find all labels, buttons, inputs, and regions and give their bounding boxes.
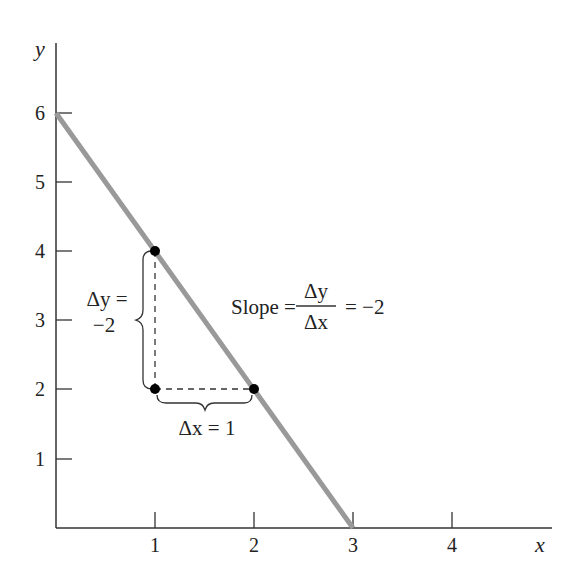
x-ticks [155,512,452,528]
x-axis-label: x [534,532,545,557]
delta-y-brace [136,251,152,389]
slope-value: = −2 [345,295,384,319]
delta-y-label: Δy = [86,287,127,311]
y-axis-label: y [33,36,45,61]
slope-numerator: Δy [304,279,329,303]
svg-text:6: 6 [35,102,45,124]
x-tick-labels: 1 2 3 4 [150,534,457,556]
svg-text:2: 2 [35,378,45,400]
svg-text:1: 1 [150,534,160,556]
svg-text:2: 2 [249,534,259,556]
svg-text:1: 1 [35,448,45,470]
slope-chart: 6 5 4 3 2 1 1 2 3 4 y x Δy = −2 Δx = 1 S… [0,0,587,584]
point-1-2 [150,384,160,394]
y-ticks [56,113,72,459]
delta-x-label: Δx = 1 [179,416,236,440]
y-tick-labels: 6 5 4 3 2 1 [35,102,45,470]
slope-label: Slope = [231,295,296,319]
svg-text:5: 5 [35,171,45,193]
svg-text:3: 3 [348,534,358,556]
svg-text:4: 4 [447,534,457,556]
delta-y-value: −2 [93,313,115,337]
slope-denominator: Δx [304,310,329,334]
svg-text:4: 4 [35,240,45,262]
point-2-2 [249,384,259,394]
delta-x-brace [157,395,252,410]
svg-text:3: 3 [35,309,45,331]
point-1-4 [150,246,160,256]
